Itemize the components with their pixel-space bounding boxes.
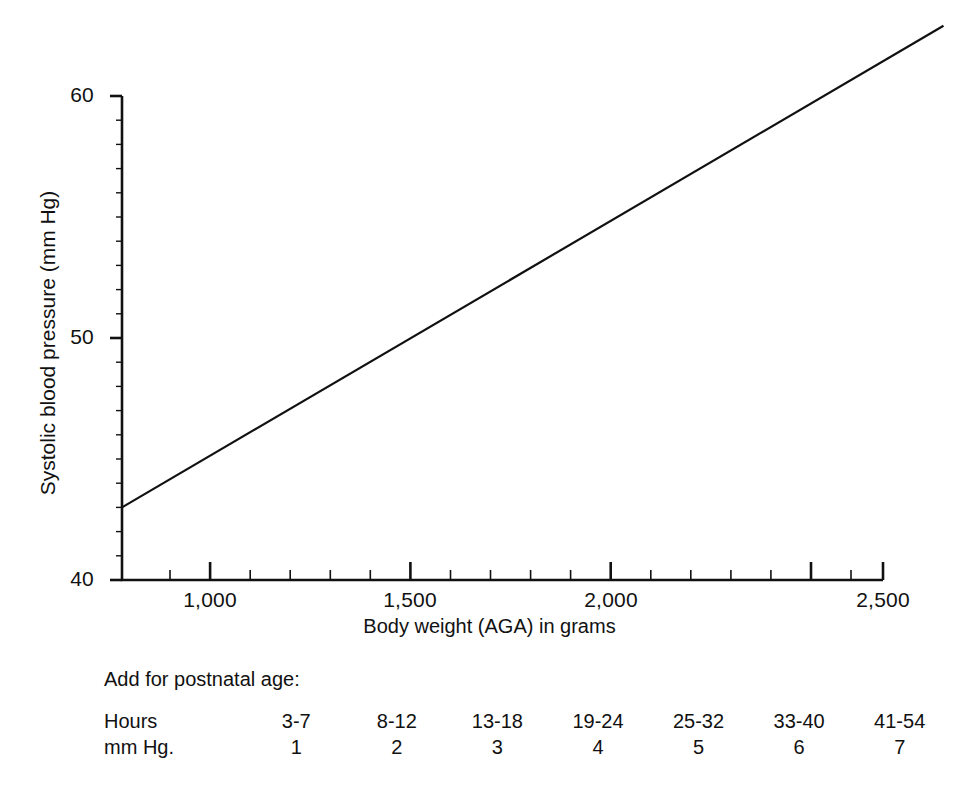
axis-spines bbox=[122, 96, 883, 580]
table-row: mm Hg. 1 2 3 4 5 6 7 bbox=[104, 735, 950, 761]
table-row: Hours 3-7 8-12 13-18 19-24 25-32 33-40 4… bbox=[104, 709, 950, 735]
mmhg-cell-6: 6 bbox=[749, 735, 850, 761]
mmhg-cell-5: 5 bbox=[648, 735, 749, 761]
mmhg-cell-1: 1 bbox=[246, 735, 347, 761]
x-tick-label-2500: 2,500 bbox=[823, 588, 943, 612]
mmhg-cell-2: 2 bbox=[347, 735, 448, 761]
mmhg-cell-7: 7 bbox=[849, 735, 950, 761]
row-label-mmhg: mm Hg. bbox=[104, 735, 246, 761]
x-tick-label-2000: 2,000 bbox=[551, 588, 671, 612]
y-tick-label-40: 40 bbox=[34, 567, 94, 591]
hours-cell-5: 25-32 bbox=[648, 709, 749, 735]
chart-plot-area bbox=[0, 0, 979, 660]
hours-cell-4: 19-24 bbox=[548, 709, 649, 735]
x-minor-ticks bbox=[170, 570, 851, 580]
mmhg-cell-4: 4 bbox=[548, 735, 649, 761]
hours-cell-3: 13-18 bbox=[447, 709, 548, 735]
regression-line bbox=[122, 26, 944, 508]
addendum-title: Add for postnatal age: bbox=[104, 668, 954, 691]
hours-cell-7: 41-54 bbox=[849, 709, 950, 735]
row-label-hours: Hours bbox=[104, 709, 246, 735]
postnatal-age-addendum: Add for postnatal age: Hours 3-7 8-12 13… bbox=[104, 668, 954, 760]
x-tick-label-1000: 1,000 bbox=[150, 588, 270, 612]
hours-cell-1: 3-7 bbox=[246, 709, 347, 735]
x-tick-label-1500: 1,500 bbox=[350, 588, 470, 612]
hours-cell-2: 8-12 bbox=[347, 709, 448, 735]
y-tick-label-60: 60 bbox=[34, 83, 94, 107]
blood-pressure-figure: 60 50 40 1,000 1,500 2,000 2,500 Systoli… bbox=[0, 0, 979, 792]
mmhg-cell-3: 3 bbox=[447, 735, 548, 761]
x-axis-title: Body weight (AGA) in grams bbox=[0, 615, 979, 638]
hours-cell-6: 33-40 bbox=[749, 709, 850, 735]
y-axis-title: Systolic blood pressure (mm Hg) bbox=[36, 178, 60, 508]
postnatal-age-table: Hours 3-7 8-12 13-18 19-24 25-32 33-40 4… bbox=[104, 709, 950, 760]
x-major-ticks bbox=[210, 562, 883, 580]
